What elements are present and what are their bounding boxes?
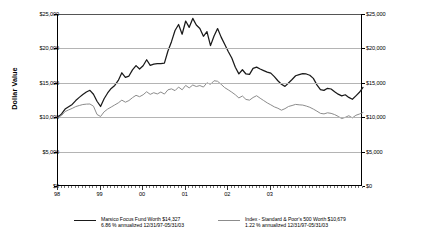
- x-tick-minor: [78, 186, 79, 188]
- x-tick-minor: [259, 186, 260, 188]
- y-tick-mark-right: [362, 48, 365, 49]
- x-tick-minor: [213, 186, 214, 188]
- x-tick-minor: [298, 186, 299, 188]
- x-tick-major: [185, 186, 186, 190]
- legend-index-line2: 1.22 % annualized 12/31/97-05/31/03: [245, 222, 346, 228]
- series-lines: [58, 14, 363, 186]
- x-tick-minor: [323, 186, 324, 188]
- x-tick-minor: [337, 186, 338, 188]
- x-tick-major: [57, 186, 58, 190]
- x-tick-minor: [351, 186, 352, 188]
- x-tick-minor: [231, 186, 232, 188]
- x-tick-minor: [174, 186, 175, 188]
- legend-fund-line2: 6.86 % annualized 12/31/97-05/31/03: [101, 222, 184, 228]
- legend-swatch-fund: [74, 220, 96, 221]
- x-tick-minor: [71, 186, 72, 188]
- x-tick-minor: [195, 186, 196, 188]
- x-tick-minor: [156, 186, 157, 188]
- x-tick-minor: [167, 186, 168, 188]
- x-tick-minor: [309, 186, 310, 188]
- y-axis-title: Dollar Value: [10, 49, 19, 129]
- x-tick-minor: [96, 186, 97, 188]
- x-tick-minor: [153, 186, 154, 188]
- x-tick-minor: [178, 186, 179, 188]
- chart-legend: Marsico Focus Fund Worth $14,327 6.86 % …: [0, 216, 427, 240]
- y-tick-mark-right: [362, 117, 365, 118]
- x-tick-major: [142, 186, 143, 190]
- y-axis-tick-label: $15,000: [39, 80, 59, 86]
- x-tick-minor: [181, 186, 182, 188]
- x-tick-minor: [68, 186, 69, 188]
- gridline: [58, 48, 361, 49]
- x-tick-minor: [312, 186, 313, 188]
- x-tick-minor: [348, 186, 349, 188]
- x-tick-minor: [305, 186, 306, 188]
- x-tick-minor: [92, 186, 93, 188]
- x-tick-minor: [206, 186, 207, 188]
- x-tick-minor: [75, 186, 76, 188]
- x-tick-minor: [330, 186, 331, 188]
- x-tick-minor: [170, 186, 171, 188]
- legend-text-index: Index - Standard & Poor's 500 Worth $10,…: [245, 216, 346, 228]
- x-tick-minor: [217, 186, 218, 188]
- x-axis-tick-label: 01: [177, 191, 193, 197]
- x-tick-minor: [199, 186, 200, 188]
- x-tick-minor: [277, 186, 278, 188]
- gridline: [58, 83, 361, 84]
- x-tick-minor: [280, 186, 281, 188]
- y-axis-tick-label: $10,000: [39, 114, 59, 120]
- x-tick-minor: [316, 186, 317, 188]
- x-tick-minor: [210, 186, 211, 188]
- x-tick-minor: [295, 186, 296, 188]
- x-tick-minor: [82, 186, 83, 188]
- x-tick-minor: [188, 186, 189, 188]
- x-tick-minor: [319, 186, 320, 188]
- x-tick-minor: [256, 186, 257, 188]
- x-axis-tick-label: 99: [92, 191, 108, 197]
- plot-area: [57, 14, 362, 186]
- gridline: [58, 152, 361, 153]
- x-tick-minor: [89, 186, 90, 188]
- x-tick-minor: [234, 186, 235, 188]
- x-tick-minor: [121, 186, 122, 188]
- x-tick-minor: [202, 186, 203, 188]
- y-axis-tick-label: $5,000: [42, 149, 59, 155]
- gridline: [58, 117, 361, 118]
- x-tick-minor: [64, 186, 65, 188]
- y-axis-tick-label: $5,000: [366, 149, 383, 155]
- x-tick-minor: [302, 186, 303, 188]
- x-tick-minor: [249, 186, 250, 188]
- x-tick-minor: [163, 186, 164, 188]
- chart-container: Dollar Value $0$5,000$10,000$15,000$20,0…: [0, 0, 427, 248]
- x-tick-minor: [131, 186, 132, 188]
- x-tick-minor: [114, 186, 115, 188]
- y-axis-tick-label: $0: [366, 183, 372, 189]
- series-line: [58, 18, 363, 117]
- x-tick-minor: [149, 186, 150, 188]
- x-tick-minor: [220, 186, 221, 188]
- y-axis-tick-label: $15,000: [366, 80, 386, 86]
- x-axis-tick-label: 98: [49, 191, 65, 197]
- y-tick-mark-right: [362, 14, 365, 15]
- x-tick-minor: [334, 186, 335, 188]
- x-tick-minor: [344, 186, 345, 188]
- x-tick-minor: [192, 186, 193, 188]
- x-tick-minor: [273, 186, 274, 188]
- x-tick-minor: [61, 186, 62, 188]
- x-tick-minor: [117, 186, 118, 188]
- x-tick-minor: [160, 186, 161, 188]
- x-tick-minor: [291, 186, 292, 188]
- x-tick-major: [100, 186, 101, 190]
- x-tick-minor: [224, 186, 225, 188]
- x-tick-minor: [263, 186, 264, 188]
- x-tick-minor: [288, 186, 289, 188]
- y-axis-tick-label: $20,000: [39, 45, 59, 51]
- x-axis-tick-label: 00: [134, 191, 150, 197]
- x-tick-minor: [139, 186, 140, 188]
- y-axis-tick-label: $25,000: [366, 11, 386, 17]
- x-tick-minor: [124, 186, 125, 188]
- x-tick-minor: [358, 186, 359, 188]
- x-tick-minor: [327, 186, 328, 188]
- y-axis-tick-label: $20,000: [366, 45, 386, 51]
- x-tick-minor: [238, 186, 239, 188]
